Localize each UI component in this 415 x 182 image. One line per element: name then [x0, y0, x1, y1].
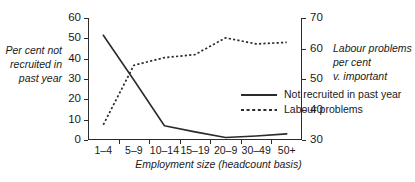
right-tick-mark — [302, 49, 306, 50]
legend-swatch-dashed-icon — [240, 105, 278, 115]
left-axis-title-line-1: Per cent not — [0, 44, 62, 58]
left-tick-label: 0 — [75, 134, 81, 146]
legend-swatch-solid-icon — [240, 90, 278, 100]
left-tick-label: 60 — [68, 12, 81, 24]
x-tick-label: 5–9 — [125, 145, 143, 156]
left-tick-label: 10 — [68, 114, 81, 126]
legend-label-labour-problems: Labour problems — [284, 104, 363, 115]
x-tick-mark — [271, 140, 272, 144]
x-tick-label: 20–9 — [214, 145, 237, 156]
x-tick-label: 50+ — [278, 145, 296, 156]
x-tick-mark — [210, 140, 211, 144]
left-axis-title-line-3: past year — [0, 72, 62, 86]
series-lines — [88, 18, 302, 140]
right-tick-mark — [302, 18, 306, 19]
legend-item-labour-problems: Labour problems — [240, 102, 401, 117]
x-tick-label: 30–49 — [242, 145, 271, 156]
right-tick-mark — [302, 79, 306, 80]
right-axis-title-line-1: Labour problems — [333, 42, 415, 56]
left-tick-label: 30 — [68, 73, 81, 85]
right-tick-label: 50 — [310, 73, 323, 85]
left-axis-title: Per cent not recruited in past year — [0, 44, 62, 86]
right-tick-mark — [302, 140, 306, 141]
left-tick-label: 40 — [68, 53, 81, 65]
right-axis-title-line-3: v. important — [333, 70, 415, 84]
x-tick-label: 1–4 — [95, 145, 113, 156]
right-tick-label: 60 — [310, 43, 323, 55]
right-tick-label: 70 — [310, 12, 323, 24]
right-axis-title-line-2: per cent — [333, 56, 415, 70]
chart-figure: Per cent not recruited in past year Labo… — [0, 0, 415, 182]
x-tick-label: 10–14 — [150, 145, 179, 156]
left-tick-label: 50 — [68, 33, 81, 45]
x-tick-mark — [119, 140, 120, 144]
right-tick-label: 30 — [310, 134, 323, 146]
plot-area: 0102030405060 3040506070 1–45–910–1415–1… — [88, 18, 302, 140]
left-axis-title-line-2: recruited in — [0, 58, 62, 72]
x-tick-label: 15–19 — [180, 145, 209, 156]
chart-legend: Not recruited in past year Labour proble… — [240, 87, 401, 117]
left-tick-label: 20 — [68, 94, 81, 106]
legend-item-not-recruited: Not recruited in past year — [240, 87, 401, 102]
right-axis-title: Labour problems per cent v. important — [333, 42, 415, 84]
legend-label-not-recruited: Not recruited in past year — [284, 89, 401, 100]
left-tick-mark — [84, 140, 88, 141]
x-axis-title: Employment size (headcount basis) — [0, 159, 415, 170]
